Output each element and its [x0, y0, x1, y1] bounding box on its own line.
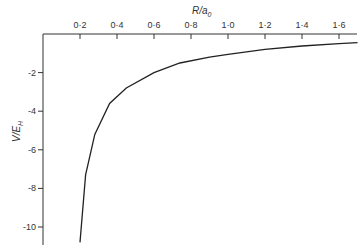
chart: 0·20·40·60·81·01·21·41·6-2-4-6-8-10 R/a0… — [0, 0, 363, 252]
x-tick-label: 1·2 — [258, 20, 271, 30]
y-axis-label: V/EH — [11, 120, 24, 142]
x-tick-label: 1·4 — [295, 20, 308, 30]
y-tick-label: -6 — [28, 145, 36, 155]
axes: 0·20·40·60·81·01·21·41·6-2-4-6-8-10 — [23, 20, 357, 245]
y-tick-label: -4 — [28, 106, 36, 116]
y-tick-label: -10 — [23, 222, 36, 232]
x-tick-label: 1·6 — [332, 20, 345, 30]
potential-curve — [80, 43, 358, 243]
x-tick-label: 0·6 — [147, 20, 160, 30]
x-tick-label: 1·0 — [221, 20, 234, 30]
y-tick-label: -2 — [28, 68, 36, 78]
x-axis-label: R/a0 — [192, 5, 212, 18]
x-tick-label: 0·8 — [184, 20, 197, 30]
y-tick-label: -8 — [28, 183, 36, 193]
x-tick-label: 0·4 — [110, 20, 123, 30]
x-tick-label: 0·2 — [73, 20, 86, 30]
